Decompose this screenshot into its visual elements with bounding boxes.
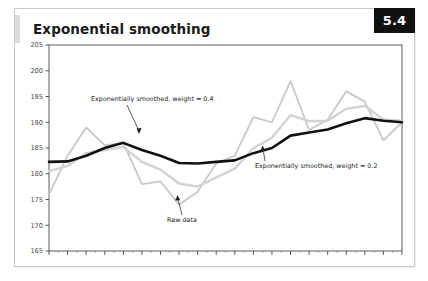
annotation-smoothed-02: Exponentially smoothed, weight = 0.2 bbox=[255, 162, 378, 170]
annotation-arrow-smoothed-04 bbox=[137, 128, 142, 134]
y-axis-tick-label: 195 bbox=[30, 93, 43, 101]
series-line bbox=[49, 118, 402, 163]
annotation-leader-raw-data bbox=[178, 199, 182, 215]
plot-area: 205200195190185180175170165Exponentially… bbox=[15, 9, 416, 268]
annotation-arrow-smoothed-02 bbox=[260, 146, 265, 152]
y-axis-tick-label: 200 bbox=[30, 67, 43, 75]
annotation-raw-data: Raw data bbox=[167, 216, 197, 224]
y-axis-tick-label: 165 bbox=[30, 247, 43, 255]
y-axis-tick-label: 190 bbox=[30, 119, 43, 127]
annotation-leader-smoothed-04 bbox=[127, 105, 139, 131]
y-axis-tick-label: 180 bbox=[30, 170, 43, 178]
annotation-smoothed-04: Exponentially smoothed, weight = 0.4 bbox=[91, 95, 214, 103]
annotation-arrow-raw-data bbox=[175, 195, 180, 201]
y-axis-tick-label: 185 bbox=[30, 144, 43, 152]
series-line bbox=[49, 106, 402, 187]
y-axis-tick-label: 170 bbox=[30, 222, 43, 230]
line-chart: 205200195190185180175170165Exponentially… bbox=[15, 9, 416, 268]
y-axis-tick-label: 205 bbox=[30, 41, 43, 49]
screenshot-root: Exponential smoothing 5.4 20520019519018… bbox=[0, 0, 428, 281]
chart-card: Exponential smoothing 5.4 20520019519018… bbox=[14, 8, 415, 267]
y-axis-tick-label: 175 bbox=[30, 196, 43, 204]
